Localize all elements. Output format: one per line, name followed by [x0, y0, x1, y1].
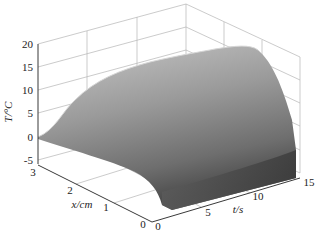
svg-text:15: 15: [22, 61, 34, 73]
chart-canvas: 20 15 10 5 0 -5 3 2 1 0 0 5 10 15 T/°C x…: [0, 0, 317, 237]
surface: [38, 46, 296, 210]
svg-text:0: 0: [140, 218, 146, 230]
svg-text:0: 0: [28, 131, 34, 143]
t-axis-label: t/s: [233, 203, 243, 215]
svg-text:20: 20: [22, 38, 34, 50]
x-axis-label: x/cm: [71, 198, 93, 210]
surface-chart: 20 15 10 5 0 -5 3 2 1 0 0 5 10 15 T/°C x…: [0, 0, 317, 237]
svg-text:10: 10: [22, 84, 34, 96]
svg-text:2: 2: [67, 184, 73, 196]
z-axis-label: T/°C: [2, 101, 14, 123]
svg-text:5: 5: [205, 206, 211, 218]
svg-text:10: 10: [253, 190, 265, 202]
svg-text:-5: -5: [24, 154, 34, 166]
svg-text:0: 0: [155, 220, 161, 232]
svg-text:3: 3: [30, 166, 36, 178]
svg-text:15: 15: [304, 176, 316, 188]
svg-text:5: 5: [28, 107, 34, 119]
svg-text:1: 1: [103, 201, 109, 213]
z-axis-ticks: 20 15 10 5 0 -5: [22, 38, 34, 166]
